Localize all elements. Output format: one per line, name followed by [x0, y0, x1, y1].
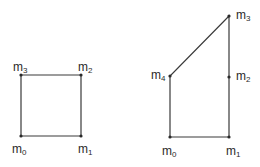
label-square-m1: m1 — [78, 143, 92, 157]
label-pentagon-m0: m0 — [162, 145, 176, 159]
label-pentagon-m1: m1 — [226, 145, 240, 159]
diagram-lines — [0, 0, 260, 167]
pentagon-shape — [170, 16, 229, 137]
square-shape — [21, 75, 81, 136]
diagram-canvas: m0 m1 m2 m3 m0 m1 m2 m3 m4 — [0, 0, 260, 167]
vertex-dots — [19, 14, 230, 138]
label-pentagon-m3: m3 — [236, 9, 250, 23]
label-square-m0: m0 — [12, 143, 26, 157]
label-pentagon-m2: m2 — [236, 70, 250, 84]
label-pentagon-m4: m4 — [151, 69, 165, 83]
label-square-m3: m3 — [13, 61, 27, 75]
label-square-m2: m2 — [78, 61, 92, 75]
